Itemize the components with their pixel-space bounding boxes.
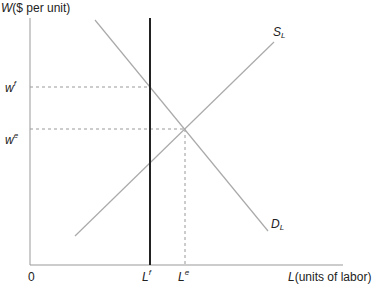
labor-market-diagram [0,0,381,291]
le-label: Le [178,271,189,283]
demand-curve [95,20,268,231]
lf-label: Lf [142,271,151,283]
supply-curve [75,42,274,236]
demand-label: DL [271,218,284,230]
supply-label: SL [273,26,285,38]
origin-label: 0 [28,271,35,283]
we-label: we [5,134,18,146]
wf-label: wf [5,82,16,94]
y-axis-label: W($ per unit) [1,2,70,14]
x-axis-label: L(units of labor) [288,271,371,283]
